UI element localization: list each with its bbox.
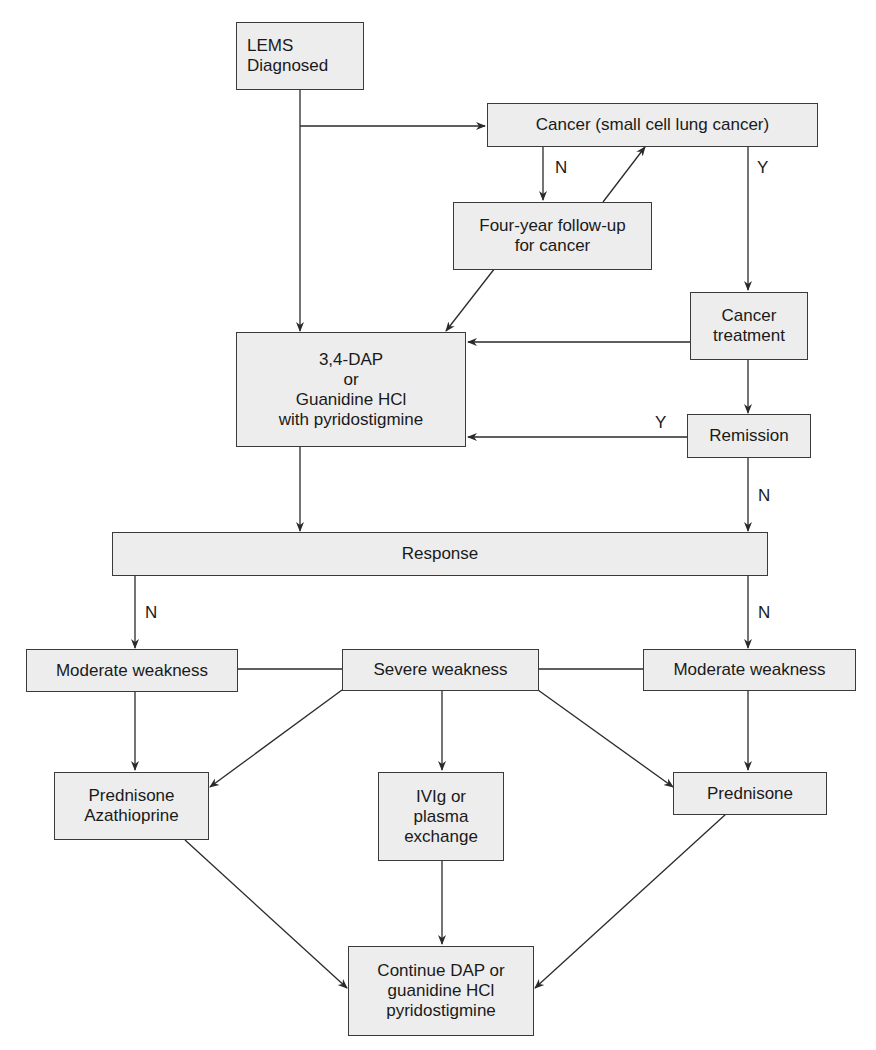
flowchart-connectors (0, 0, 876, 1050)
node-moderate-weakness-left: Moderate weakness (26, 649, 238, 692)
node-prednisone-azathioprine: Prednisone Azathioprine (54, 772, 209, 840)
edge-label-cancer-yes: Y (757, 158, 768, 178)
edge-label-remission-no: N (758, 486, 770, 506)
edge-label-response-no-right: N (758, 603, 770, 623)
edge-label-remission-yes: Y (655, 413, 666, 433)
node-moderate-weakness-right: Moderate weakness (643, 649, 856, 691)
node-severe-weakness: Severe weakness (342, 649, 539, 691)
node-four-year-followup: Four-year follow-up for cancer (453, 202, 652, 270)
node-dap-guanidine: 3,4-DAP or Guanidine HCl with pyridostig… (236, 332, 466, 447)
node-cancer-treatment: Cancer treatment (690, 292, 808, 360)
node-cancer: Cancer (small cell lung cancer) (487, 103, 818, 147)
node-remission: Remission (687, 414, 811, 458)
node-continue-dap: Continue DAP or guanidine HCl pyridostig… (348, 946, 534, 1036)
node-lems-diagnosed: LEMS Diagnosed (236, 22, 364, 90)
node-response: Response (112, 532, 768, 576)
edge-label-response-no-left: N (145, 603, 157, 623)
node-ivig-plasma-exchange: IVIg or plasma exchange (378, 772, 504, 861)
node-prednisone: Prednisone (673, 772, 827, 815)
flowchart-canvas: LEMS Diagnosed Cancer (small cell lung c… (0, 0, 876, 1050)
edge-label-cancer-no: N (555, 158, 567, 178)
